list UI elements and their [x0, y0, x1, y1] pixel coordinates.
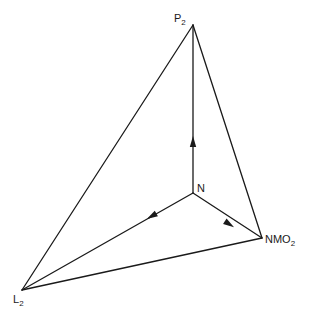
edge-n-nmo2: [193, 193, 262, 238]
edge-n-l2: [22, 193, 193, 290]
edge-p2-nmo2: [193, 25, 262, 238]
vertex-label-l2-sub: 2: [19, 299, 23, 308]
edge-p2-l2: [22, 25, 193, 290]
vertex-label-p2-sub: 2: [181, 18, 185, 27]
arrow-n-to-p2-icon: [190, 136, 196, 147]
vertex-label-nmo2-sub: 2: [291, 239, 295, 248]
vertex-label-n: N: [197, 183, 205, 194]
vertex-label-p2: P2: [174, 13, 186, 27]
vertex-label-n-base: N: [197, 182, 205, 194]
tetrahedral-diagram: [0, 0, 315, 322]
edge-l2-nmo2: [22, 238, 262, 290]
vertex-label-l2: L2: [13, 294, 24, 308]
vertex-label-nmo2: NMO2: [265, 234, 295, 248]
vertex-label-nmo2-base: NMO: [265, 233, 291, 245]
arrow-n-to-l2-icon: [145, 211, 158, 222]
